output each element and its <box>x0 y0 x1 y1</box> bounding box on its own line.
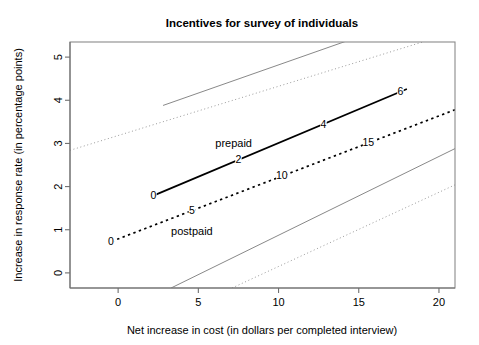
point-label-prepaid-6: 6 <box>398 85 404 97</box>
point-label-prepaid-2: 2 <box>236 153 242 165</box>
y-tick-label-4: 4 <box>52 97 64 103</box>
point-label-postpaid-15: 15 <box>363 136 375 148</box>
y-tick-label-1: 1 <box>52 227 64 233</box>
y-tick-label-3: 3 <box>52 140 64 146</box>
point-label-prepaid-0: 0 <box>150 189 156 201</box>
x-tick-label-15: 15 <box>353 296 365 308</box>
chart-canvas: Incentives for survey of individuals Net… <box>0 0 479 345</box>
x-tick-label-5: 5 <box>195 296 201 308</box>
series-label-prepaid: prepaid <box>215 137 252 149</box>
chart-figure: Incentives for survey of individuals Net… <box>0 0 479 345</box>
series-label-postpaid: postpaid <box>171 225 213 237</box>
y-tick-label-0: 0 <box>52 270 64 276</box>
point-label-postpaid-0: 0 <box>108 235 114 247</box>
point-label-postpaid-10: 10 <box>276 169 288 181</box>
point-label-postpaid-5: 5 <box>189 204 195 216</box>
y-tick-label-2: 2 <box>52 184 64 190</box>
y-tick-label-5: 5 <box>52 54 64 60</box>
x-tick-label-0: 0 <box>115 296 121 308</box>
point-label-prepaid-4: 4 <box>321 118 327 130</box>
x-axis-label: Net increase in cost (in dollars per com… <box>127 324 397 336</box>
chart-title: Incentives for survey of individuals <box>166 17 358 29</box>
x-tick-label-20: 20 <box>433 296 445 308</box>
x-tick-label-10: 10 <box>272 296 284 308</box>
y-axis-label: Increase in response rate (in percentage… <box>12 48 24 282</box>
